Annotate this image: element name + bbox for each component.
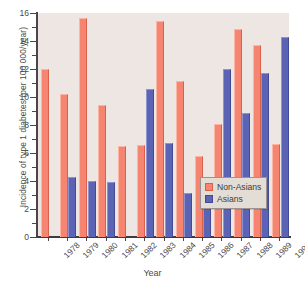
bar-group xyxy=(154,13,173,237)
bar-non-asians xyxy=(41,69,49,237)
x-tick xyxy=(279,238,280,241)
x-tick xyxy=(221,238,222,241)
y-tick-major xyxy=(30,209,37,210)
legend-label-asians: Asians xyxy=(217,194,243,204)
bar-asians xyxy=(107,182,115,237)
bar-asians xyxy=(261,73,269,237)
bar-group xyxy=(270,13,289,237)
y-tick-minor xyxy=(32,111,37,112)
x-tick-label: 1984 xyxy=(177,240,197,260)
x-tick-label: 1989 xyxy=(273,240,293,260)
x-tick xyxy=(183,238,184,241)
bar-asians xyxy=(184,193,192,237)
bar-group xyxy=(115,13,134,237)
bar-non-asians xyxy=(60,94,68,238)
x-tick xyxy=(144,238,145,241)
y-tick-major xyxy=(30,13,37,14)
bar-group xyxy=(96,13,115,237)
x-tick xyxy=(164,238,165,241)
x-axis-ticks: 1978197919801981198219831984198519861987… xyxy=(38,238,293,272)
bar-asians xyxy=(242,113,250,237)
y-tick-minor xyxy=(32,83,37,84)
y-tick-label: 0 xyxy=(3,232,29,242)
y-tick-major xyxy=(30,125,37,126)
bar-non-asians xyxy=(176,81,184,237)
bar-group xyxy=(173,13,192,237)
y-tick-label: 14 xyxy=(3,36,29,46)
legend-label-non-asians: Non-Asians xyxy=(217,182,261,192)
bar-non-asians xyxy=(137,145,145,237)
y-tick-major xyxy=(30,181,37,182)
bar-asians xyxy=(223,69,231,237)
y-tick-major xyxy=(30,237,37,238)
x-tick xyxy=(67,238,68,241)
bar-non-asians xyxy=(118,146,126,237)
bar-asians xyxy=(68,177,76,237)
x-axis-title: Year xyxy=(0,268,305,278)
bar-non-asians xyxy=(98,105,106,237)
x-tick xyxy=(125,238,126,241)
x-tick-label: 1983 xyxy=(158,240,178,260)
y-tick-minor xyxy=(32,223,37,224)
x-tick-label: 1980 xyxy=(100,240,120,260)
bar-asians xyxy=(165,143,173,237)
y-tick-label: 10 xyxy=(3,92,29,102)
legend-item-asians[interactable]: Asians xyxy=(205,193,261,205)
bar-group xyxy=(57,13,76,237)
y-tick-label: 12 xyxy=(3,64,29,74)
x-tick xyxy=(48,238,49,241)
x-tick-label: 1990 xyxy=(293,240,305,260)
y-tick-major xyxy=(30,153,37,154)
x-tick-label: 1979 xyxy=(80,240,100,260)
y-tick-major xyxy=(30,41,37,42)
x-tick-label: 1987 xyxy=(235,240,255,260)
y-tick-major xyxy=(30,97,37,98)
x-tick-label: 1986 xyxy=(216,240,236,260)
bar-asians xyxy=(281,37,289,237)
y-tick-minor xyxy=(32,167,37,168)
y-tick-label: 16 xyxy=(3,8,29,18)
bar-group xyxy=(135,13,154,237)
y-tick-label: 4 xyxy=(3,176,29,186)
bar-asians xyxy=(146,89,154,237)
chart-legend: Non-Asians Asians xyxy=(200,177,267,209)
x-tick xyxy=(106,238,107,241)
x-tick xyxy=(260,238,261,241)
legend-swatch-non-asians xyxy=(205,183,213,191)
y-tick-minor xyxy=(32,55,37,56)
legend-item-non-asians[interactable]: Non-Asians xyxy=(205,181,261,193)
y-tick-minor xyxy=(32,139,37,140)
x-tick-label: 1988 xyxy=(254,240,274,260)
x-tick-label: 1978 xyxy=(61,240,81,260)
x-tick xyxy=(202,238,203,241)
x-tick-label: 1985 xyxy=(196,240,216,260)
bar-asians xyxy=(88,181,96,237)
y-tick-label: 6 xyxy=(3,148,29,158)
x-tick xyxy=(241,238,242,241)
bar-non-asians xyxy=(272,144,280,237)
legend-swatch-asians xyxy=(205,195,213,203)
y-axis-ticks: 0246810121416 xyxy=(0,0,29,284)
chart-container: Incidence of type 1 diabetes (per 100 00… xyxy=(0,0,305,284)
x-tick-label: 1982 xyxy=(138,240,158,260)
bar-group xyxy=(38,13,57,237)
y-tick-major xyxy=(30,69,37,70)
y-tick-label: 8 xyxy=(3,120,29,130)
x-tick-label: 1981 xyxy=(119,240,139,260)
y-tick-minor xyxy=(32,195,37,196)
bar-group xyxy=(77,13,96,237)
bar-non-asians xyxy=(79,18,87,237)
y-tick-label: 2 xyxy=(3,204,29,214)
bar-non-asians xyxy=(156,21,164,237)
x-tick xyxy=(86,238,87,241)
y-tick-minor xyxy=(32,27,37,28)
